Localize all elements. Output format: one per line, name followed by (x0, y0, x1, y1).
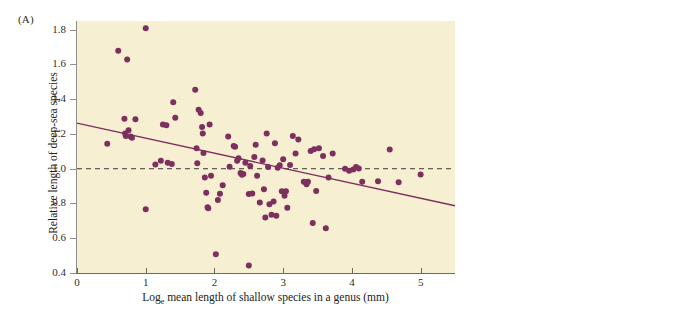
scatter-point (200, 150, 206, 156)
scatter-point (225, 133, 231, 139)
scatter-point (152, 162, 158, 168)
scatter-point (203, 190, 209, 196)
scatter-point (257, 200, 263, 206)
scatter-point (247, 163, 253, 169)
scatter-point (273, 213, 279, 219)
scatter-point (326, 174, 332, 180)
scatter-point (217, 191, 223, 197)
scatter-point (356, 165, 362, 171)
scatter-point (232, 144, 238, 150)
scatter-point (265, 164, 271, 170)
scatter-point (246, 263, 252, 269)
scatter-point (293, 150, 299, 156)
scatter-point (290, 133, 296, 139)
panel-b-photograph: (B) 1211109876123456789101112131415 (455, 0, 689, 310)
scatter-point (251, 154, 257, 160)
scatter-point (104, 141, 110, 147)
scatter-point (132, 116, 138, 122)
scatter-point (305, 179, 311, 185)
scatter-point (277, 162, 283, 168)
scatter-point (194, 160, 200, 166)
scatter-point (198, 110, 204, 116)
scatter-point (262, 214, 268, 220)
scatter-point (129, 135, 135, 141)
scatter-point (323, 225, 329, 231)
scatter-point (124, 57, 130, 63)
scatter-point (254, 173, 260, 179)
scatter-point (310, 220, 316, 226)
scatter-point (418, 171, 424, 177)
scatter-point (261, 186, 267, 192)
scatter-point (236, 155, 242, 161)
scatter-point (220, 182, 226, 188)
scatter-point (192, 87, 198, 93)
scatter-point (330, 150, 336, 156)
data-points (104, 25, 423, 268)
scatter-point (227, 164, 233, 170)
scatter-point (170, 99, 176, 105)
scatter-point (272, 140, 278, 146)
scatter-point (126, 127, 132, 133)
scatter-point (387, 147, 393, 153)
scatter-point (280, 156, 286, 162)
scatter-point (287, 162, 293, 168)
scatter-point (199, 124, 205, 130)
scatter-point (242, 160, 248, 166)
panel-a-scatter-plot: (A) 0.40.60.81.01.21.41.61.8 012345 Rela… (0, 0, 460, 310)
scatter-point (260, 158, 266, 164)
scatter-point (115, 48, 121, 54)
scatter-point (313, 188, 319, 194)
scatter-point (271, 198, 277, 204)
scatter-point (295, 137, 301, 143)
scatter-point (202, 174, 208, 180)
scatter-point (316, 145, 322, 151)
scatter-point (172, 115, 178, 121)
scatter-point (284, 205, 290, 211)
scatter-point (249, 191, 255, 197)
scatter-point (215, 197, 221, 203)
scatter-point (200, 130, 206, 136)
scatter-point (320, 153, 326, 159)
scatter-point (207, 122, 213, 128)
scatter-point (208, 173, 214, 179)
scatter-point (396, 179, 402, 185)
scatter-point (121, 116, 127, 122)
scatter-point (158, 158, 164, 164)
scatter-point (359, 179, 365, 185)
scatter-point (264, 130, 270, 136)
scatter-point (375, 178, 381, 184)
scatter-point (163, 122, 169, 128)
scatter-point (213, 251, 219, 257)
scatter-point (143, 206, 149, 212)
scatter-point (205, 205, 211, 211)
scatter-point (240, 171, 246, 177)
scatter-point (194, 145, 200, 151)
scatter-svg (0, 0, 460, 310)
scatter-point (283, 188, 289, 194)
scatter-point (169, 161, 175, 167)
scatter-point (253, 142, 259, 148)
scatter-point (143, 25, 149, 31)
